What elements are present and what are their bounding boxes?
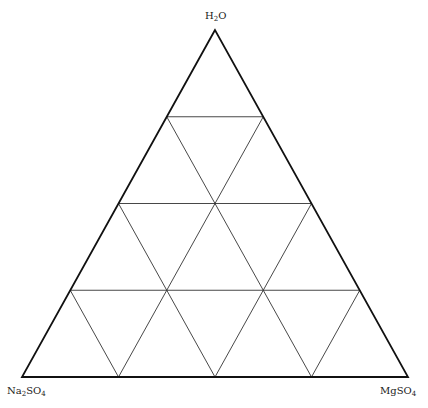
- grid-line-parallel-right: [70, 290, 118, 377]
- vertex-label-h2o: H2O: [205, 11, 226, 23]
- grid-line-parallel-left: [119, 117, 264, 377]
- grid-lines: [70, 117, 360, 377]
- vertex-label-mgso4: MgSO4: [380, 386, 416, 398]
- grid-line-parallel-right: [167, 117, 312, 377]
- grid-line-parallel-left: [312, 290, 360, 377]
- ternary-diagram: [0, 0, 428, 408]
- vertex-label-na2so4: Na2SO4: [7, 386, 46, 398]
